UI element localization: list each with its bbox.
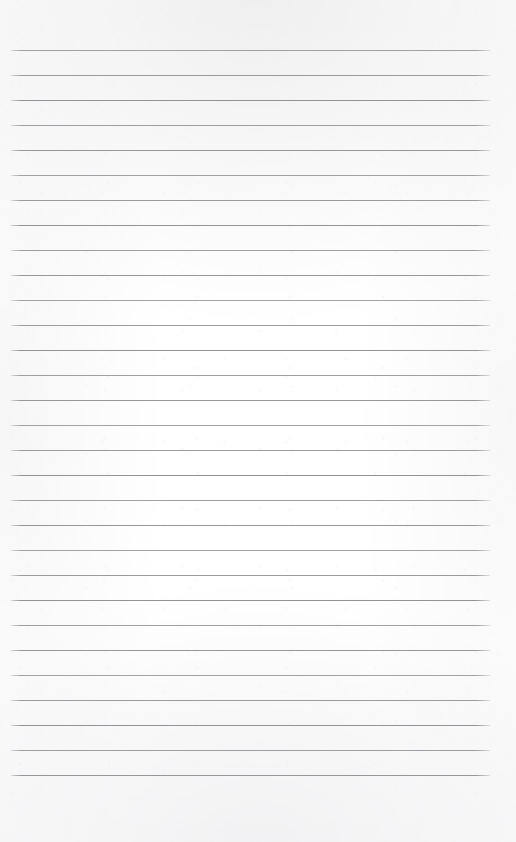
- rule-line: [11, 775, 490, 776]
- rule-line: [11, 200, 490, 201]
- rule-line: [11, 425, 490, 426]
- rule-line: [11, 225, 490, 226]
- rule-line: [11, 275, 490, 276]
- rule-line: [11, 675, 490, 676]
- rule-line: [11, 75, 490, 76]
- rule-line: [11, 475, 490, 476]
- rule-line: [11, 725, 490, 726]
- rule-line: [11, 450, 490, 451]
- rule-line: [11, 300, 490, 301]
- rule-line: [11, 250, 490, 251]
- rule-line: [11, 150, 490, 151]
- rule-line: [11, 525, 490, 526]
- rule-line: [11, 600, 490, 601]
- rule-line: [11, 500, 490, 501]
- rule-line: [11, 375, 490, 376]
- lined-notebook-page: [0, 0, 516, 842]
- rule-line: [11, 575, 490, 576]
- rule-line: [11, 100, 490, 101]
- rule-line: [11, 550, 490, 551]
- rule-line: [11, 625, 490, 626]
- rule-line: [11, 350, 490, 351]
- rule-line: [11, 750, 490, 751]
- rule-line: [11, 175, 490, 176]
- rule-line: [11, 400, 490, 401]
- rule-line: [11, 325, 490, 326]
- rule-line: [11, 125, 490, 126]
- rule-line: [11, 50, 490, 51]
- rule-line: [11, 700, 490, 701]
- rule-line: [11, 650, 490, 651]
- rule-line-layer: [0, 0, 516, 842]
